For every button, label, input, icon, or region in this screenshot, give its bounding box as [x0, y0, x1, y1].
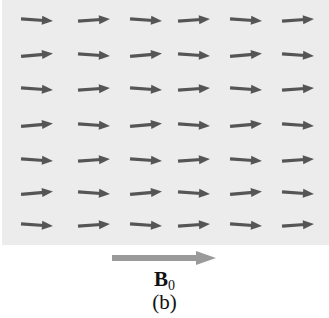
spin-arrow-icon [178, 14, 211, 25]
spin-arrow-icon [178, 49, 211, 60]
spin-arrow-icon [21, 83, 54, 94]
spin-arrow-icon [282, 119, 315, 130]
spin-arrow-icon [178, 83, 211, 94]
spin-arrow-icon [78, 219, 111, 230]
spin-arrow-icon [78, 154, 111, 165]
spin-arrow-icon [21, 14, 54, 25]
spin-arrow-icon [130, 219, 163, 230]
spin-arrow-icon [130, 49, 163, 61]
spin-arrow-icon [178, 154, 211, 165]
spin-arrow-icon [230, 154, 263, 165]
spin-arrow-icon [78, 119, 111, 130]
spin-arrow-icon [130, 119, 163, 131]
spin-arrow-icon [78, 49, 111, 60]
spin-arrow-icon [230, 219, 263, 230]
spin-arrow-icon [178, 119, 211, 130]
spin-arrow-icon [130, 187, 163, 199]
spin-arrow-icon [78, 187, 111, 198]
spin-arrow-icon [282, 49, 315, 60]
spin-arrow-icon [230, 14, 263, 25]
spin-arrow-icon [130, 154, 163, 165]
spin-arrow-icon [282, 14, 315, 25]
spin-arrow-icon [178, 219, 211, 230]
spin-arrow-icon [282, 154, 315, 165]
spin-arrow-icon [282, 187, 315, 198]
spin-arrow-icon [78, 14, 111, 25]
spin-arrow-icon [21, 119, 54, 131]
spin-arrow-icon [230, 49, 263, 61]
spin-arrow-icon [230, 119, 263, 131]
spin-arrow-icon [78, 83, 111, 94]
spin-arrow-icon [130, 83, 163, 94]
spin-arrow-icon [21, 219, 54, 230]
spin-arrow-icon [21, 187, 54, 199]
spin-arrow-icon [21, 154, 54, 165]
spin-arrow-grid [0, 0, 329, 245]
spin-arrow-icon [21, 49, 54, 61]
spin-arrow-icon [178, 187, 211, 198]
b0-field-arrow-icon [112, 251, 216, 265]
spin-arrow-icon [230, 187, 263, 199]
b0-symbol: B [154, 267, 168, 291]
spin-arrow-icon [282, 83, 315, 94]
spin-arrow-icon [130, 14, 163, 25]
spin-arrow-icon [282, 219, 315, 230]
spin-arrow-icon [230, 83, 263, 94]
figure-caption: (b) [0, 290, 329, 315]
